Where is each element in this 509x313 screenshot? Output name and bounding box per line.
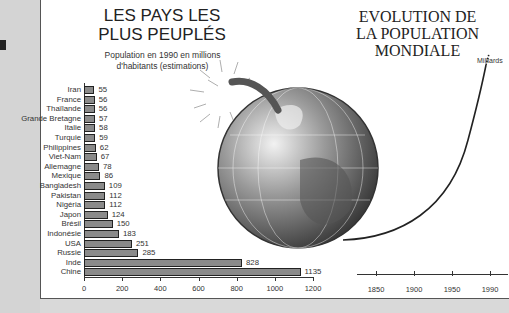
year-tick-label: 1990 [482, 285, 499, 294]
year-tick-label: 1900 [406, 285, 423, 294]
year-tick [376, 271, 377, 276]
year-tick-label: 1950 [444, 285, 461, 294]
year-tick-label: 1850 [368, 285, 385, 294]
line-chart-x-axis [357, 274, 508, 275]
year-tick [452, 271, 453, 276]
year-tick [490, 271, 491, 276]
year-tick [414, 271, 415, 276]
